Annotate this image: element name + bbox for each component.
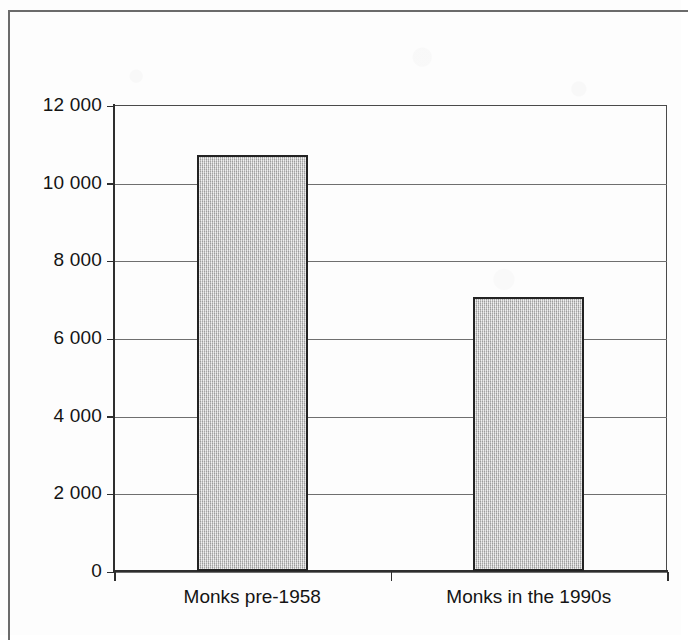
y-axis-tick-label: 2 000 bbox=[53, 482, 102, 504]
y-axis-tick-label: 8 000 bbox=[53, 249, 102, 271]
bar bbox=[473, 297, 584, 571]
y-axis-tick-label: 10 000 bbox=[43, 172, 102, 194]
x-axis-tick bbox=[114, 572, 116, 581]
y-axis-tick-label: 12 000 bbox=[43, 94, 102, 116]
x-axis-category-label: Monks pre-1958 bbox=[114, 586, 391, 608]
x-axis-tick bbox=[667, 572, 669, 581]
y-axis-tick-label: 4 000 bbox=[53, 405, 102, 427]
bar bbox=[197, 155, 308, 571]
x-axis-category-label: Monks in the 1990s bbox=[391, 586, 668, 608]
y-axis-tick-label: 0 bbox=[91, 560, 102, 582]
y-axis-tick-labels: 02 0004 0006 0008 00010 00012 000 bbox=[0, 0, 102, 635]
y-axis-tick-label: 6 000 bbox=[53, 327, 102, 349]
y-axis-line bbox=[113, 104, 115, 573]
x-axis-tick bbox=[391, 572, 393, 581]
